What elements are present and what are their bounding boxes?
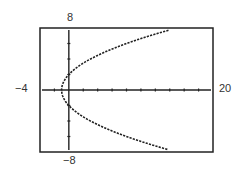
ymin-label: −8 xyxy=(63,155,76,166)
ymax-label: 8 xyxy=(67,12,73,23)
xmin-label: −4 xyxy=(15,83,28,94)
xmax-label: 20 xyxy=(219,83,231,94)
graph-plot xyxy=(0,0,243,172)
